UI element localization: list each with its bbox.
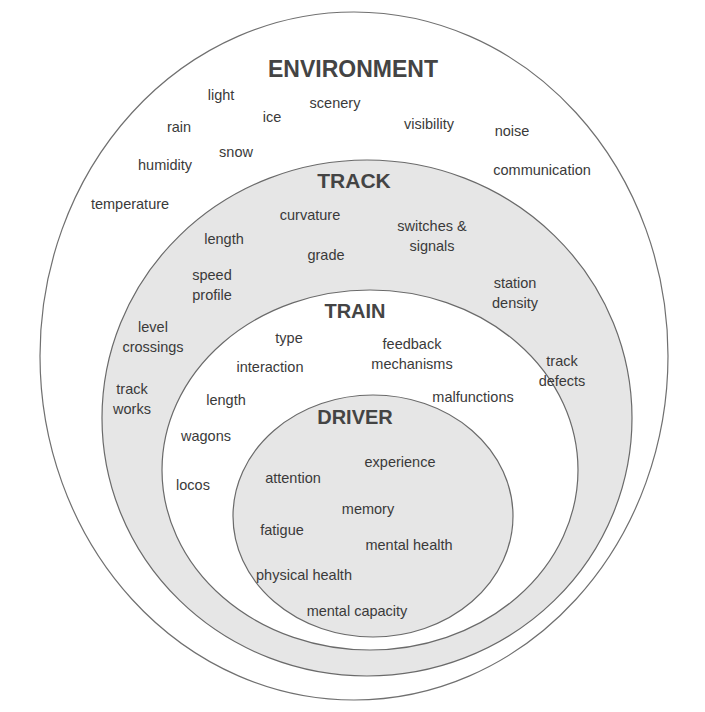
environment-title: ENVIRONMENT — [268, 56, 438, 83]
driver-item-fatigue: fatigue — [260, 520, 304, 540]
track-item-speed-profile: speed profile — [182, 265, 242, 305]
track-item-grade: grade — [307, 245, 344, 265]
env-item-noise: noise — [495, 121, 530, 141]
env-item-ice: ice — [263, 107, 282, 127]
driver-item-attention: attention — [265, 468, 321, 488]
nested-factors-diagram: ENVIRONMENT light ice scenery rain visib… — [0, 0, 705, 712]
driver-item-mental-health: mental health — [365, 535, 452, 555]
env-item-humidity: humidity — [138, 155, 192, 175]
env-item-visibility: visibility — [404, 114, 454, 134]
train-item-feedback-mechanisms: feedback mechanisms — [362, 334, 462, 374]
train-item-type: type — [275, 328, 302, 348]
train-title: TRAIN — [324, 300, 385, 323]
track-item-switches-signals: switches & signals — [392, 216, 472, 256]
driver-item-mental-capacity: mental capacity — [307, 601, 408, 621]
driver-item-memory: memory — [342, 499, 394, 519]
train-item-wagons: wagons — [181, 426, 231, 446]
driver-item-experience: experience — [365, 452, 436, 472]
train-item-interaction: interaction — [237, 357, 304, 377]
env-item-rain: rain — [167, 117, 191, 137]
train-item-length: length — [206, 390, 246, 410]
env-item-communication: communication — [493, 160, 591, 180]
track-item-track-defects: track defects — [532, 351, 592, 391]
env-item-snow: snow — [219, 142, 253, 162]
track-item-station-density: station density — [483, 273, 547, 313]
train-item-locos: locos — [176, 475, 210, 495]
track-item-track-works: track works — [107, 379, 157, 419]
track-title: TRACK — [317, 169, 391, 193]
env-item-scenery: scenery — [310, 93, 361, 113]
track-item-length: length — [204, 229, 244, 249]
track-item-curvature: curvature — [280, 205, 340, 225]
env-item-temperature: temperature — [91, 194, 169, 214]
driver-title: DRIVER — [317, 406, 393, 429]
env-item-light: light — [208, 85, 235, 105]
track-item-level-crossings: level crossings — [118, 317, 188, 357]
driver-item-physical-health: physical health — [256, 565, 352, 585]
train-item-malfunctions: malfunctions — [432, 387, 513, 407]
